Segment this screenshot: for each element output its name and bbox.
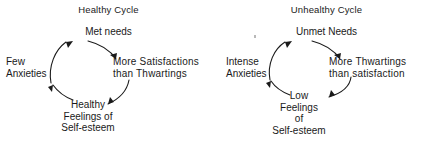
unhealthy-cycle-group: Unhealthy Cycle Unmet Needs: [218, 0, 435, 144]
node-met-needs: Met needs: [0, 26, 217, 38]
arrowhead-to-few-anxieties: [48, 85, 53, 92]
node-more-satisfactions-than-thwartings: More Satisfactions than Thwartings: [113, 56, 199, 79]
arrowhead-to-met-needs: [66, 41, 73, 48]
node-unmet-needs: Unmet Needs: [218, 26, 435, 38]
node-few-anxieties: Few Anxieties: [6, 56, 47, 79]
healthy-cycle-group: Healthy Cycle Met needs: [0, 0, 217, 144]
node-intense-anxieties: Intense Anxieties: [226, 56, 267, 79]
arrow-path-met-needs-to-satisfactions: [88, 41, 116, 59]
arrowhead-to-unmet-needs: [285, 41, 292, 48]
arrowhead-to-intense-anxieties: [266, 81, 271, 88]
node-more-thwartings-than-satisfaction: More Thwartings than satisfaction: [329, 56, 406, 79]
node-healthy-feelings-of-self-esteem: Healthy Feelings of Self-esteem: [28, 99, 148, 134]
arrow-path-anxieties-to-unmet-needs: [269, 42, 285, 80]
arrow-path-self-esteem-to-anxieties: [53, 85, 73, 100]
diagram-canvas: Healthy Cycle Met needs: [0, 0, 435, 144]
arrow-path-anxieties-to-met-needs: [50, 42, 66, 83]
node-low-feelings-of-self-esteem: Low Feelings of Self-esteem: [240, 90, 358, 136]
